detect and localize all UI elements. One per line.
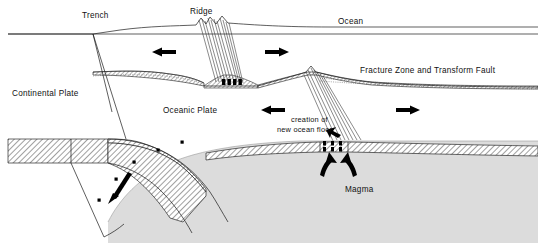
- label-creation-line1: creation of: [291, 115, 328, 124]
- upper-dike-swarm: [199, 18, 243, 83]
- label-creation-line2: new ocean floor: [277, 125, 333, 134]
- upper-ridge-structure: [199, 18, 258, 88]
- diagram-canvas: Trench Ridge Ocean Fracture Zone and Tra…: [0, 0, 538, 243]
- label-magma: Magma: [345, 185, 374, 194]
- label-ridge: Ridge: [190, 7, 213, 16]
- arrow-ocean-left-upper: [152, 48, 176, 57]
- upper-oceanic-crust-left: [93, 71, 204, 86]
- plate-tectonics-diagram: Trench Ridge Ocean Fracture Zone and Tra…: [0, 0, 538, 243]
- label-oceanic-plate: Oceanic Plate: [163, 106, 217, 115]
- label-ocean: Ocean: [338, 17, 364, 26]
- label-continental-plate: Continental Plate: [12, 89, 79, 98]
- arrow-ocean-right-lower: [396, 106, 420, 115]
- arrow-ocean-right-upper: [265, 48, 289, 57]
- arrow-ocean-left-lower: [261, 106, 285, 115]
- label-trench: Trench: [82, 11, 109, 20]
- label-fracture-zone: Fracture Zone and Transform Fault: [360, 66, 496, 75]
